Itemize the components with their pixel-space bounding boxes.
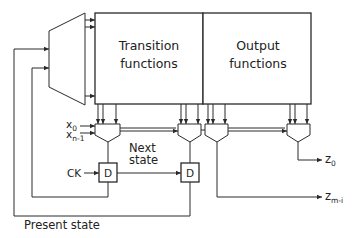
present-state-label: Present state bbox=[24, 218, 100, 232]
output-label-1: Output bbox=[236, 38, 280, 53]
ck-label: CK bbox=[67, 167, 82, 179]
transition-label-1: Transition bbox=[118, 38, 179, 53]
circuit-diagram: Transition functions Output functions bbox=[0, 0, 360, 238]
z0-label: z0 bbox=[325, 152, 336, 168]
output-label-2: functions bbox=[229, 56, 287, 71]
mux-1-inputs bbox=[98, 104, 116, 124]
d-flipflop-1: D bbox=[99, 163, 117, 182]
mux-4 bbox=[287, 124, 310, 142]
next-state-label-2: state bbox=[129, 153, 158, 167]
mux-4-inputs bbox=[290, 104, 307, 124]
svg-text:D: D bbox=[104, 167, 112, 179]
x-bus bbox=[120, 128, 287, 131]
mux-3 bbox=[205, 124, 228, 142]
mux-3-inputs bbox=[208, 104, 225, 124]
transition-label-2: functions bbox=[120, 56, 178, 71]
zm-label: zm-i bbox=[325, 189, 343, 205]
mux-2-inputs bbox=[181, 104, 198, 124]
mux-2 bbox=[178, 124, 201, 142]
svg-text:D: D bbox=[186, 167, 194, 179]
output-functions-block: Output functions bbox=[203, 13, 311, 104]
transition-functions-block: Transition functions bbox=[95, 13, 203, 104]
mux-1 bbox=[95, 124, 120, 142]
x-inputs: x0 xn-1 bbox=[66, 118, 95, 143]
decoder-outputs bbox=[85, 20, 95, 96]
z0-output: z0 bbox=[298, 142, 336, 168]
decoder-block bbox=[49, 13, 85, 105]
d-flipflop-2: D bbox=[181, 163, 199, 182]
